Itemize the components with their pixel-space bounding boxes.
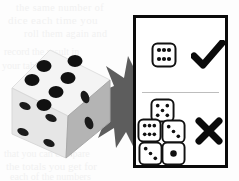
incorrect-dice-slot bbox=[136, 94, 192, 168]
comparison-panel bbox=[133, 15, 228, 168]
ghost-text-line: dice each time you bbox=[8, 14, 98, 26]
ghost-text-line: each of the numbers bbox=[10, 171, 91, 181]
small-die-6-alt bbox=[137, 118, 162, 143]
small-die-1 bbox=[161, 141, 186, 166]
incorrect-mark-slot bbox=[192, 94, 225, 168]
ghost-text-line: the same number of bbox=[16, 2, 104, 13]
ghost-text-line: roll them again and bbox=[24, 28, 107, 39]
correct-dice-slot bbox=[136, 18, 191, 92]
panel-divider bbox=[142, 92, 219, 93]
correct-mark-slot bbox=[191, 18, 225, 92]
cross-icon bbox=[194, 116, 224, 146]
check-icon bbox=[191, 40, 225, 70]
panel-row-correct bbox=[136, 18, 225, 92]
illustration-canvas: the same number of dice each time you ro… bbox=[0, 0, 239, 181]
small-die-3-alt bbox=[138, 141, 163, 166]
large-die bbox=[6, 44, 124, 162]
small-die-6 bbox=[151, 42, 177, 68]
panel-row-incorrect bbox=[136, 94, 225, 168]
dice-cluster bbox=[136, 98, 192, 164]
